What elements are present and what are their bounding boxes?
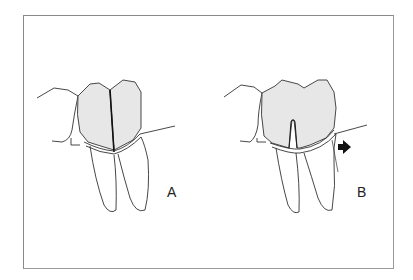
panel-b-label: B — [357, 185, 366, 199]
panel-a-tooth — [37, 80, 175, 212]
dental-illustration — [0, 0, 413, 280]
right-arrow-icon — [338, 140, 351, 154]
panel-a-label: A — [167, 185, 176, 199]
